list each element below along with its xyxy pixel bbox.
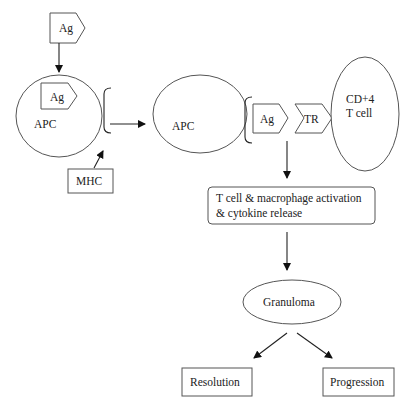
mhc-bracket-left [104, 88, 111, 133]
resolution-node: Resolution [182, 368, 252, 396]
apc-left-node: Ag APC [16, 75, 102, 157]
arrow-granuloma-to-resolution [254, 333, 287, 358]
progression-label: Progression [330, 376, 385, 389]
antigen-inner-label: Ag [50, 91, 64, 104]
activation-node: T cell & macrophage activation & cytokin… [208, 187, 375, 224]
antigen-top-node: Ag [50, 13, 85, 43]
antigen-presented-label: Ag [260, 113, 274, 126]
activation-label-line1: T cell & macrophage activation [216, 192, 362, 205]
antigen-presented-node: Ag [253, 104, 288, 133]
cd4-label-line1: CD+4 [346, 93, 374, 105]
tcr-node: TR [295, 104, 332, 133]
apc-right-node: APC [153, 75, 247, 153]
granuloma-label: Granuloma [263, 296, 315, 308]
granuloma-node: Granuloma [243, 280, 341, 324]
apc-right-label: APC [172, 120, 195, 132]
progression-node: Progression [323, 368, 394, 396]
apc-left-label: APC [34, 118, 57, 130]
granuloma-pathway-diagram: Ag Ag APC MHC APC Ag TR CD+4 T cell [0, 0, 413, 412]
activation-label-line2: & cytokine release [216, 207, 302, 220]
cd4-label-line2: T cell [346, 107, 372, 119]
tcr-label: TR [304, 113, 319, 125]
mhc-label: MHC [76, 175, 103, 187]
arrow-mhc-to-bracket [94, 151, 103, 168]
antigen-top-label: Ag [59, 22, 73, 35]
cd4-tcell-node: CD+4 T cell [331, 57, 399, 171]
resolution-label: Resolution [190, 376, 240, 388]
arrow-granuloma-to-progression [297, 333, 332, 358]
mhc-node: MHC [68, 169, 113, 193]
